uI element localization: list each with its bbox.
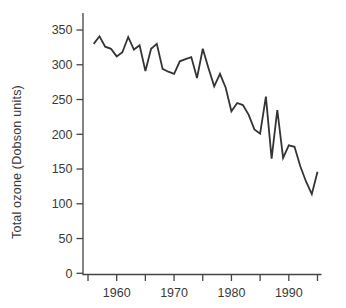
y-tick-label: 100 xyxy=(52,197,73,211)
y-tick-label: 250 xyxy=(52,93,73,107)
y-tick-label: 0 xyxy=(66,267,73,281)
x-tick-label: 1970 xyxy=(160,286,188,300)
ozone-line-chart: 0501001502002503003501960197019801990 To… xyxy=(0,0,346,308)
y-axis-title: Total ozone (Dobson units) xyxy=(10,85,24,239)
x-tick-label: 1960 xyxy=(103,286,131,300)
y-tick-label: 200 xyxy=(52,128,73,142)
plot-area xyxy=(94,36,318,194)
y-tick-label: 50 xyxy=(59,232,73,246)
y-tick-label: 350 xyxy=(52,23,73,37)
ozone-chart-figure: 0501001502002503003501960197019801990 To… xyxy=(0,0,346,308)
y-tick-label: 150 xyxy=(52,162,73,176)
x-tick-label: 1980 xyxy=(218,286,246,300)
x-tick-label: 1990 xyxy=(275,286,303,300)
y-tick-label: 300 xyxy=(52,58,73,72)
ozone-series-line xyxy=(94,36,318,194)
axes: 0501001502002503003501960197019801990 xyxy=(52,13,322,300)
